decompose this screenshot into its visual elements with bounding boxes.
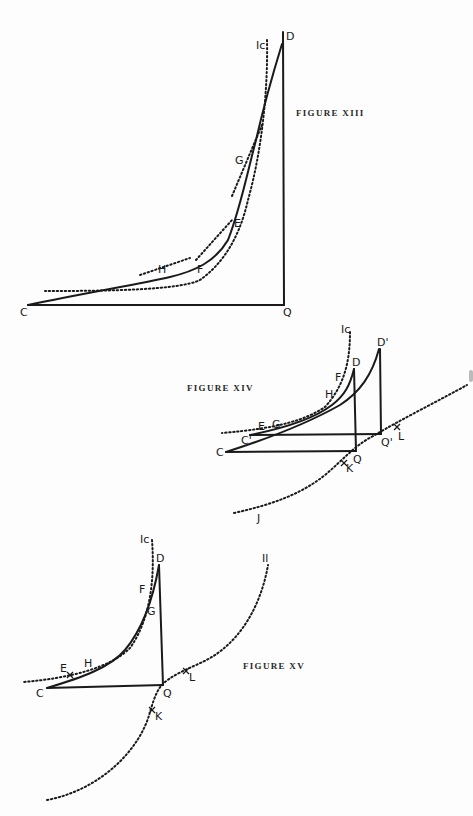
label-q: Q [283,306,292,319]
line-cq [47,685,163,688]
label-g: G [147,605,156,618]
figure-xiv: C C' D D' Q Q' E F G H K L J Ic FIGURE X… [187,323,467,525]
label-h: H [84,657,92,670]
label-l: L [398,430,405,443]
figure-title: FIGURE XIV [187,383,254,393]
label-j: J [256,512,260,525]
line-qd [354,369,356,451]
label-d: D [286,30,294,43]
label-f: F [197,263,203,276]
label-h: H [158,263,166,276]
figure-xv: C D Q E F G H K L Ic Il FIGURE XV [24,533,305,800]
line-cq [226,451,356,452]
line-c-prime-q-prime [250,434,381,435]
figure-title: FIGURE XV [243,661,305,671]
line-qd [283,32,284,305]
solid-curve-cd [28,44,282,305]
label-e: E [234,217,241,230]
label-e: E [258,420,265,433]
label-c: C [36,687,44,700]
label-c-prime: C' [241,434,252,447]
label-g: G [235,154,244,167]
label-q: Q [163,687,172,700]
label-k: K [346,462,354,475]
figure-title: FIGURE XIII [296,108,365,118]
line-q-prime-d-prime [380,349,381,434]
indifference-curve-ic [45,40,267,291]
label-h: H [325,388,333,401]
label-ic: Ic [341,323,350,336]
curve-kl [47,565,268,800]
figures-canvas: C D Q E F G H Ic FIGURE XIII C C' D D' Q… [0,0,473,816]
label-k: K [155,710,163,723]
label-d-prime: D' [377,336,389,349]
label-g: G [272,418,281,431]
label-f: F [335,371,341,384]
label-ic: Ic [140,533,149,546]
label-d: D [156,552,164,565]
label-d: D [352,356,360,369]
label-ic: Ic [256,39,265,52]
label-il: Il [262,552,268,565]
label-q-prime: Q' [381,436,393,449]
label-q: Q [353,453,362,466]
label-f: F [139,583,145,596]
curve-jkl [234,385,467,513]
label-c: C [216,446,224,459]
line-qd [159,565,163,685]
label-l: L [189,671,196,684]
label-c: C [20,306,28,319]
label-e: E [60,662,67,675]
figure-xiii: C D Q E F G H Ic FIGURE XIII [20,30,365,319]
page-edge-mark [469,370,473,382]
